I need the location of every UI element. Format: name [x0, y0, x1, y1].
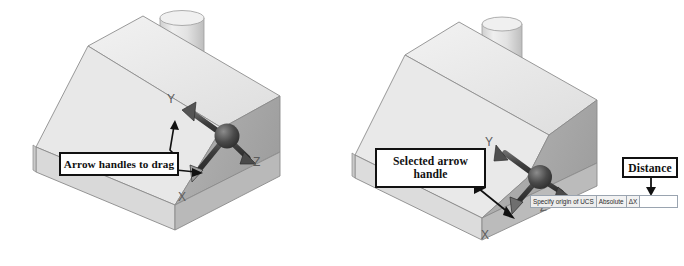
callout-distance: Distance [622, 157, 678, 178]
callout-selected-line2: handle [377, 168, 484, 181]
axis-label-x-right: X [481, 228, 489, 242]
panel-unselected-gizmo: Y Z X Arrow handles to drag [0, 0, 342, 266]
dynamic-input-prompt: Specify origin of UCS [531, 196, 596, 207]
dynamic-input-field-value[interactable] [639, 196, 677, 207]
dynamic-input-field-label: ΔX [626, 196, 640, 207]
figure-ucs-arrow-handles: Y Z X Arrow handles to drag [0, 0, 684, 266]
callout-arrow-handles-to-drag: Arrow handles to drag [59, 152, 179, 176]
panel-selected-gizmo: Y Z X Selected arrow handle [342, 0, 684, 266]
solid-model-right [342, 0, 684, 266]
axis-label-y-right: Y [485, 135, 493, 149]
solid-model-left [0, 0, 342, 266]
axis-label-z-left: Z [253, 155, 260, 169]
callout-selected-arrow-handle: Selected arrow handle [375, 148, 486, 188]
callout-selected-line1: Selected arrow [377, 155, 484, 168]
distance-leader-arrow-icon [640, 177, 662, 197]
axis-label-y-left: Y [167, 92, 175, 106]
axis-label-x-left: X [178, 190, 186, 204]
dynamic-input-mode[interactable]: Absolute [596, 196, 626, 207]
dynamic-input-tooltip[interactable]: Specify origin of UCS Absolute ΔX [530, 195, 678, 208]
